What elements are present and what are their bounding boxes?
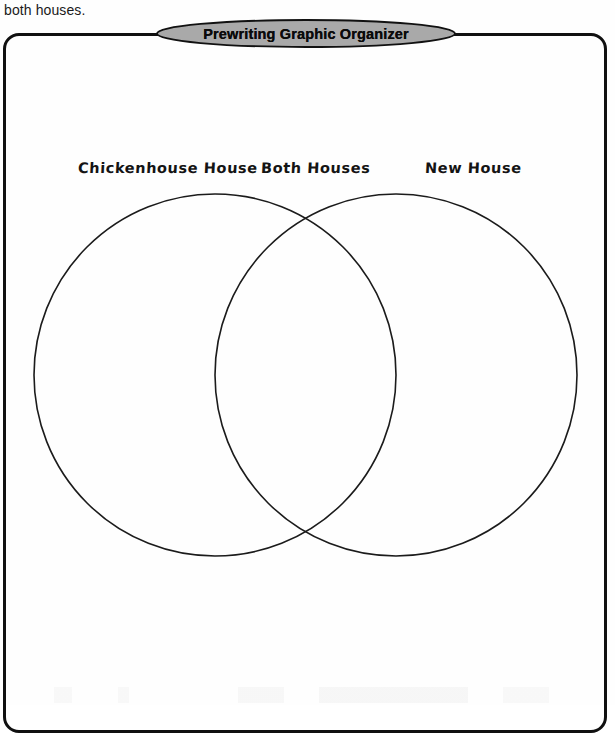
page-title: Prewriting Graphic Organizer: [155, 18, 457, 49]
venn-label-right: New House: [425, 160, 523, 176]
title-banner: Prewriting Graphic Organizer: [155, 18, 457, 49]
venn-label-left: Chickenhouse House: [78, 160, 259, 176]
worksheet-frame: [3, 33, 607, 733]
top-text-fragment: both houses.: [4, 2, 85, 19]
venn-label-middle: Both Houses: [261, 160, 371, 176]
scan-artifact: [20, 687, 595, 703]
